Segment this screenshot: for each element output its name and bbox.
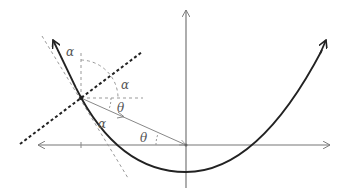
parabola-right-extension [320, 40, 326, 54]
label-alpha-right: α [121, 78, 129, 92]
x-axis [38, 142, 330, 148]
point-p [79, 96, 83, 100]
label-theta-lower: θ [140, 131, 148, 145]
diagram-canvas: α α α θ θ [0, 0, 356, 196]
angle-arc-origin [156, 134, 158, 145]
label-alpha-lower: α [98, 117, 106, 131]
tangent-guide-line [42, 36, 128, 178]
origin-point [185, 144, 188, 147]
angle-arc-large [81, 60, 118, 98]
angle-arc-small [109, 98, 111, 109]
diagram-svg: α α α θ θ [0, 0, 356, 196]
parabola-curve [76, 50, 322, 172]
label-alpha-top: α [66, 45, 74, 59]
label-theta-upper: θ [117, 101, 125, 115]
